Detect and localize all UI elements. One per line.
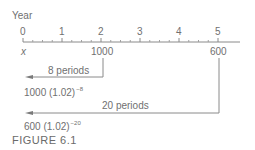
figure-6-1: Year 0 1 2 3 4 5 x 1000 600 8 periods 10…	[0, 0, 255, 150]
present-value-1000: 1000 (1.02)−8	[24, 88, 83, 99]
arrowhead-20-periods	[25, 111, 33, 115]
present-value-600: 600 (1.02)−20	[24, 122, 81, 133]
arrow-label-20-periods: 20 periods	[102, 101, 149, 111]
present-value-1000-base: 1000 (1.02)	[24, 87, 75, 98]
tick-label-4: 4	[176, 27, 182, 37]
arrow-label-8-periods: 8 periods	[48, 66, 89, 76]
tick-label-1: 1	[59, 27, 65, 37]
tick-label-3: 3	[137, 27, 143, 37]
arrowhead-8-periods	[25, 75, 33, 79]
payment-amount-year-2: 1000	[91, 47, 113, 57]
tick-label-2: 2	[98, 27, 104, 37]
axis-label: Year	[12, 11, 32, 21]
tick-label-5: 5	[215, 27, 221, 37]
present-value-1000-exponent: −8	[76, 86, 83, 92]
payment-amount-year-5: 600	[210, 47, 227, 57]
origin-label: x	[21, 47, 26, 57]
present-value-600-exponent: −20	[71, 120, 81, 126]
tick-label-0: 0	[20, 27, 26, 37]
figure-caption: FIGURE 6.1	[12, 134, 77, 146]
present-value-600-base: 600 (1.02)	[24, 121, 70, 132]
